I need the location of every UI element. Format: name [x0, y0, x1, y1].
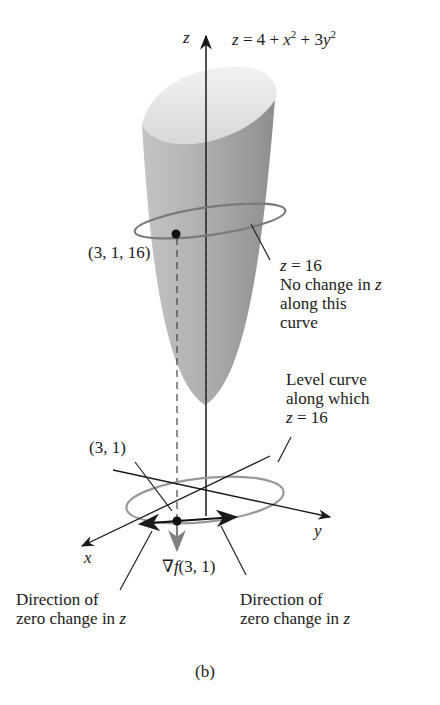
- x-axis-label: x: [84, 548, 92, 567]
- z-axis-label: z: [183, 28, 190, 47]
- level-curve-label: Level curve along which z = 16: [286, 370, 370, 427]
- direction-left-label: Direction of zero change in z: [16, 590, 126, 628]
- paraboloid-surface: [142, 95, 275, 405]
- point-3d-label: (3, 1, 16): [88, 243, 150, 262]
- figure-caption: (b): [195, 662, 215, 681]
- gradient-label: ∇f(3, 1): [162, 557, 215, 576]
- surface-equation: z = 4 + x2 + 3y2: [232, 30, 336, 49]
- y-axis-label: y: [314, 521, 322, 540]
- direction-right-label: Direction of zero change in z: [240, 590, 350, 628]
- point-3-1-16: [172, 230, 181, 239]
- point-2d-label: (3, 1): [89, 438, 126, 457]
- point-3-1: [173, 517, 182, 526]
- contour-label: z = 16 No change in z along this curve: [280, 256, 382, 332]
